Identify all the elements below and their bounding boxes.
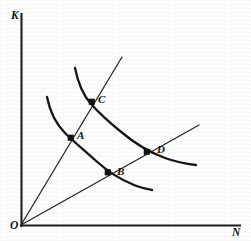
point-label-c: C [98,94,105,105]
point-marker-a [68,135,74,141]
point-marker-c [89,99,95,105]
point-label-b: B [117,166,124,177]
origin-label: O [10,220,18,232]
figure-canvas [0,0,251,241]
point-marker-d [144,149,150,155]
point-label-d: D [157,144,165,155]
x-axis-label: N [232,227,240,239]
y-axis-label: K [11,10,19,22]
point-marker-b [105,170,111,176]
point-label-a: A [77,130,84,141]
isoquant-figure: K N O A B C D [0,0,251,241]
isoquant-upper-curve [75,68,196,165]
ray-steep-line [21,57,122,225]
